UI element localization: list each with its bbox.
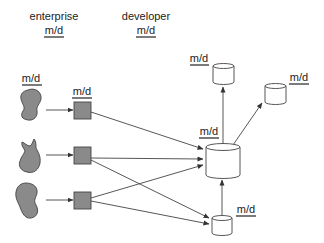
developer-header: developer m/d bbox=[122, 10, 171, 37]
developer-node-central-label: m/d bbox=[200, 125, 218, 137]
blob-icon bbox=[19, 139, 40, 173]
enterprise-node-1-label: m/d bbox=[73, 85, 91, 97]
square-icon bbox=[74, 147, 91, 164]
square-icon bbox=[74, 192, 91, 209]
developer-node-bottom: m/d bbox=[212, 203, 256, 236]
enterprise-node-2 bbox=[74, 147, 91, 164]
blob-icon bbox=[16, 183, 38, 218]
developer-title: developer bbox=[122, 10, 171, 22]
source-3 bbox=[16, 183, 38, 218]
source-1-label: m/d bbox=[22, 72, 40, 84]
square-icon bbox=[74, 102, 91, 119]
arrow-node2-to-central bbox=[91, 158, 203, 159]
developer-node-central: m/d bbox=[199, 125, 240, 179]
developer-node-top: m/d bbox=[190, 52, 234, 85]
source-1: m/d bbox=[21, 72, 42, 120]
developer-label: m/d bbox=[137, 24, 155, 36]
cylinder-icon bbox=[265, 84, 286, 105]
blob-icon bbox=[21, 89, 41, 120]
arrow-node1-to-central bbox=[91, 112, 203, 149]
cylinder-icon bbox=[213, 64, 234, 85]
cylinder-icon bbox=[206, 144, 240, 179]
enterprise-title: enterprise bbox=[30, 10, 79, 22]
arrow-node3-to-bottom bbox=[91, 201, 209, 224]
arrow-central-to-right bbox=[233, 103, 262, 145]
enterprise-label: m/d bbox=[45, 24, 63, 36]
arrow-node3-to-central bbox=[91, 165, 203, 198]
developer-node-bottom-label: m/d bbox=[237, 203, 255, 215]
developer-node-right: m/d bbox=[265, 71, 309, 105]
developer-node-top-label: m/d bbox=[190, 52, 208, 64]
enterprise-node-1: m/d bbox=[72, 85, 92, 119]
developer-node-right-label: m/d bbox=[290, 71, 308, 83]
enterprise-header: enterprise m/d bbox=[30, 10, 79, 37]
diagram-canvas: enterprise m/d developer m/d m/d m/d bbox=[0, 0, 324, 243]
enterprise-node-3 bbox=[74, 192, 91, 209]
cylinder-icon bbox=[212, 216, 232, 236]
source-2 bbox=[19, 139, 40, 173]
